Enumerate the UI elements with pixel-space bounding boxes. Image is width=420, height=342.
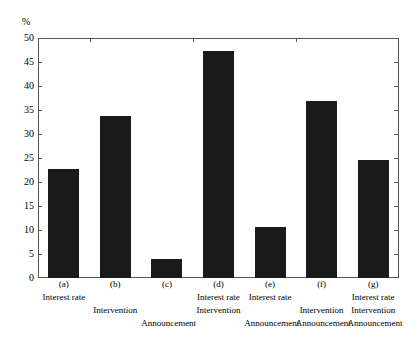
x-label-line: Interest rate <box>347 293 399 302</box>
x-label-key: (b) <box>90 280 142 289</box>
bar <box>151 259 182 278</box>
x-label-key: (e) <box>244 280 296 289</box>
x-label-key: (d) <box>193 280 245 289</box>
bars-container <box>38 38 399 278</box>
x-axis-labels: (a)Interest rate(b)Intervention(c)Announ… <box>38 280 399 342</box>
x-label-key: (c) <box>141 280 193 289</box>
x-label-line: Announcement <box>141 319 193 328</box>
bar <box>255 227 286 278</box>
y-tick-label: 10 <box>14 225 34 235</box>
y-tick-label: 50 <box>14 33 34 43</box>
x-label-line: Announcement <box>244 319 296 328</box>
x-label-line: Intervention <box>90 306 142 315</box>
x-label-line: Intervention <box>347 306 399 315</box>
bar <box>203 51 234 278</box>
bar <box>48 169 79 278</box>
bar <box>358 160 389 278</box>
bar <box>306 101 337 278</box>
x-label-key: (a) <box>38 280 90 289</box>
bar <box>100 116 131 278</box>
x-label-line: Intervention <box>193 306 245 315</box>
y-axis <box>0 0 38 342</box>
x-label-key: (g) <box>347 280 399 289</box>
y-tick-label: 0 <box>14 273 34 283</box>
y-tick-label: 45 <box>14 57 34 67</box>
x-label-line: Interest rate <box>38 293 90 302</box>
y-tick-label: 5 <box>14 249 34 259</box>
y-tick-label: 20 <box>14 177 34 187</box>
x-label-key: (f) <box>296 280 348 289</box>
y-tick-label: 25 <box>14 153 34 163</box>
x-label-line: Interest rate <box>193 293 245 302</box>
x-label-line: Interest rate <box>244 293 296 302</box>
y-tick-label: 40 <box>14 81 34 91</box>
x-label-line: Intervention <box>296 306 348 315</box>
x-label-line: Announcement <box>296 319 348 328</box>
x-label-line: Announcement <box>347 319 399 328</box>
y-tick-label: 35 <box>14 105 34 115</box>
y-tick-label: 30 <box>14 129 34 139</box>
y-tick-label: 15 <box>14 201 34 211</box>
bar-chart-figure: % 05101520253035404550 (a)Interest rate(… <box>0 0 420 342</box>
